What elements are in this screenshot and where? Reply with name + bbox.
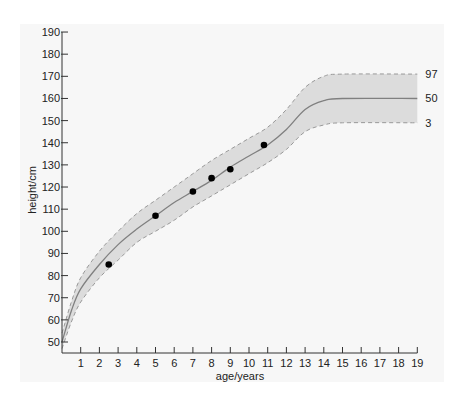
measurement-point (152, 213, 159, 220)
percentile-band-fill (62, 74, 417, 349)
x-tick-label: 8 (209, 357, 215, 369)
x-tick-label: 13 (299, 357, 311, 369)
y-tick-label: 130 (42, 159, 60, 171)
y-tick-label: 150 (42, 115, 60, 127)
y-tick-label: 180 (42, 48, 60, 60)
x-tick-label: 6 (171, 357, 177, 369)
x-tick-label: 5 (152, 357, 158, 369)
x-axis-title: age/years (216, 370, 265, 382)
x-tick-label: 14 (318, 357, 330, 369)
x-tick-label: 17 (374, 357, 386, 369)
measurement-point (105, 261, 112, 268)
x-tick-label: 10 (243, 357, 255, 369)
x-tick-label: 1 (78, 357, 84, 369)
y-tick-label: 50 (48, 336, 60, 348)
y-tick-label: 70 (48, 292, 60, 304)
y-axis-title: height/cm (26, 166, 38, 214)
x-tick-label: 16 (355, 357, 367, 369)
measurement-point (208, 175, 215, 182)
y-tick-label: 170 (42, 70, 60, 82)
x-tick-label: 4 (134, 357, 140, 369)
y-tick-label: 190 (42, 26, 60, 38)
y-tick-label: 90 (48, 247, 60, 259)
x-tick-label: 11 (262, 357, 273, 369)
measurement-point (227, 166, 234, 173)
measurement-point (261, 142, 268, 149)
percentile-label-3: 3 (425, 117, 431, 129)
x-tick-label: 18 (392, 357, 404, 369)
x-tick-label: 12 (280, 357, 292, 369)
x-tick-label: 7 (190, 357, 196, 369)
x-tick-label: 3 (115, 357, 121, 369)
y-tick-label: 60 (48, 314, 60, 326)
y-tick-label: 80 (48, 270, 60, 282)
x-tick-label: 19 (411, 357, 423, 369)
y-tick-label: 120 (42, 181, 60, 193)
x-tick-label: 15 (336, 357, 348, 369)
growth-chart: 5060708090100110120130140150160170180190… (0, 0, 463, 402)
x-tick-label: 9 (227, 357, 233, 369)
percentile-band (62, 74, 417, 349)
y-tick-label: 160 (42, 92, 60, 104)
percentile-label-50: 50 (425, 92, 437, 104)
y-tick-label: 100 (42, 225, 60, 237)
percentile-label-97: 97 (425, 68, 437, 80)
y-tick-label: 140 (42, 137, 60, 149)
y-tick-label: 110 (42, 203, 60, 215)
end-labels: 97503 (425, 68, 437, 129)
measurement-point (190, 188, 197, 195)
percentile-50-line (62, 98, 417, 342)
x-tick-label: 2 (96, 357, 102, 369)
